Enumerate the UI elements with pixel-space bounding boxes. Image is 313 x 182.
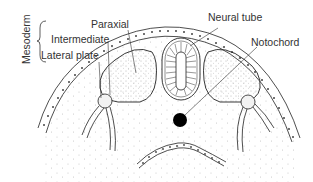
right-intermediate-mesoderm (241, 95, 255, 109)
embryo-cross-section-diagram: Mesoderm Paraxial Intermediate Lateral p… (0, 0, 313, 182)
lateral-plate-label: Lateral plate (41, 50, 99, 61)
notochord-label: Notochord (251, 37, 299, 48)
right-somite (204, 49, 261, 102)
intermediate-label: Intermediate (51, 34, 109, 45)
mesoderm-label: Mesoderm (20, 14, 32, 64)
neural-tube (162, 38, 200, 100)
diagram-canvas (0, 0, 313, 182)
neural-canal (176, 52, 186, 90)
paraxial-label: Paraxial (91, 19, 129, 30)
notochord (173, 113, 187, 127)
neural-tube-label: Neural tube (208, 12, 262, 23)
left-intermediate-mesoderm (98, 94, 112, 108)
